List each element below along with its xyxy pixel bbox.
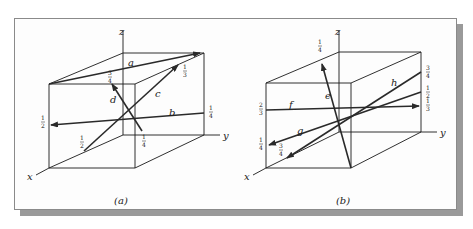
axes-b: z y x — [244, 26, 446, 182]
fraction-c-end: 1 3 — [183, 63, 187, 78]
vector-a-label: a — [128, 57, 134, 68]
diagram-b: z y x e f g h 1 4 3 4 1 2 1 3 — [244, 26, 446, 206]
vector-b — [51, 113, 204, 125]
vector-a — [49, 53, 200, 84]
fraction-b-start: 1 4 — [209, 104, 213, 119]
figure-svg: z y x a b c d 3 4 1 3 1 4 1 — [0, 0, 473, 229]
vector-f-label: f — [288, 99, 295, 110]
fraction-g-end: 1 4 — [259, 136, 263, 151]
vector-e — [322, 64, 351, 168]
svg-text:1: 1 — [80, 134, 84, 141]
svg-text:3: 3 — [426, 64, 430, 71]
diagram-a: z y x a b c d 3 4 1 3 1 4 1 — [27, 26, 229, 206]
svg-text:4: 4 — [318, 46, 322, 53]
vector-g-label: g — [297, 125, 303, 136]
vector-d-label: d — [110, 94, 116, 105]
fraction-d-start: 1 4 — [142, 133, 146, 148]
svg-text:4: 4 — [108, 77, 112, 84]
fraction-d-end: 3 4 — [108, 69, 112, 84]
svg-text:1: 1 — [41, 114, 45, 121]
svg-text:1: 1 — [209, 104, 213, 111]
svg-text:1: 1 — [259, 136, 263, 143]
fraction-b-end: 1 2 — [41, 114, 45, 129]
y-axis-label: y — [222, 130, 229, 141]
fraction-e-end: 1 4 — [318, 38, 322, 53]
vector-c — [84, 65, 178, 151]
cube-a — [49, 53, 204, 168]
svg-text:4: 4 — [142, 141, 146, 148]
svg-text:3: 3 — [426, 105, 430, 112]
x-axis — [253, 168, 266, 175]
svg-text:3: 3 — [108, 69, 112, 76]
axes-a: z y x — [27, 26, 229, 182]
svg-text:1: 1 — [318, 38, 322, 45]
vector-d — [112, 84, 142, 131]
svg-text:2: 2 — [80, 142, 84, 149]
svg-text:1: 1 — [142, 133, 146, 140]
y-axis-label: y — [439, 127, 446, 138]
svg-text:4: 4 — [209, 112, 213, 119]
svg-text:1: 1 — [426, 84, 430, 91]
svg-text:4: 4 — [259, 144, 263, 151]
x-axis — [36, 168, 49, 175]
fraction-h-start: 3 4 — [426, 64, 430, 79]
svg-text:3: 3 — [183, 71, 187, 78]
svg-text:3: 3 — [279, 142, 283, 149]
fraction-f-start: 2 3 — [259, 101, 263, 116]
svg-text:1: 1 — [426, 97, 430, 104]
svg-text:3: 3 — [259, 109, 263, 116]
x-axis-label: x — [244, 171, 250, 182]
vector-c-label: c — [155, 88, 161, 99]
vector-b-label: b — [169, 107, 175, 118]
fraction-f-end: 1 3 — [426, 97, 430, 112]
svg-text:2: 2 — [259, 101, 263, 108]
fraction-c-start: 1 2 — [80, 134, 84, 149]
svg-text:4: 4 — [279, 150, 283, 157]
vector-h-label: h — [391, 77, 397, 88]
svg-text:2: 2 — [41, 122, 45, 129]
svg-text:1: 1 — [183, 63, 187, 70]
x-axis-label: x — [27, 171, 33, 182]
caption-b: (b) — [336, 195, 350, 206]
z-axis-label: z — [118, 26, 125, 37]
vector-h — [287, 72, 421, 158]
fraction-h-end: 3 4 — [279, 142, 283, 157]
vector-e-label: e — [325, 90, 331, 101]
caption-a: (a) — [114, 195, 128, 206]
svg-text:4: 4 — [426, 72, 430, 79]
z-axis-label: z — [334, 26, 341, 37]
